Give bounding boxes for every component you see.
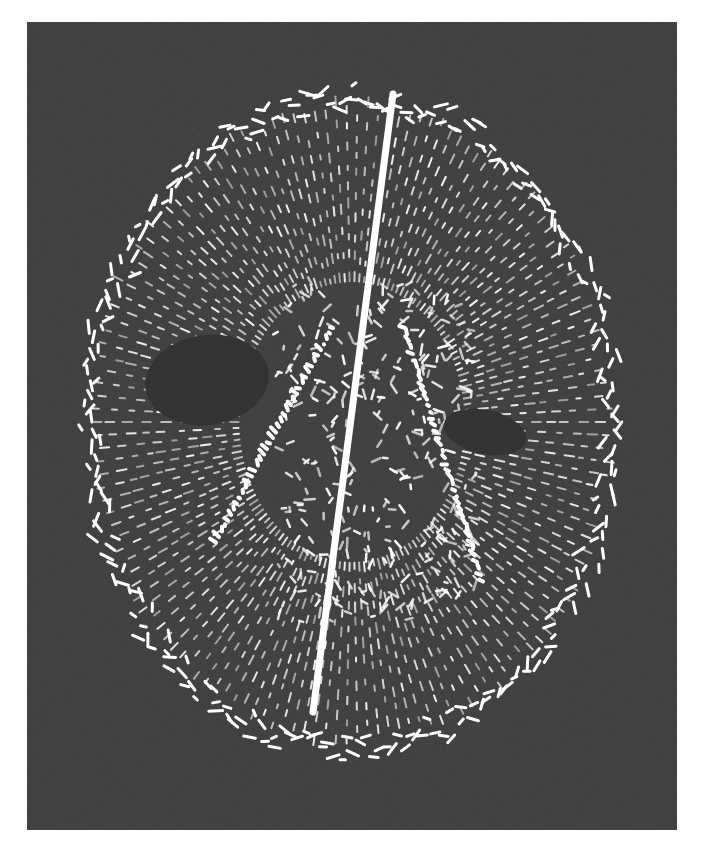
brain-tractography-image <box>27 22 677 830</box>
brain-vector-field-figure <box>27 22 677 830</box>
